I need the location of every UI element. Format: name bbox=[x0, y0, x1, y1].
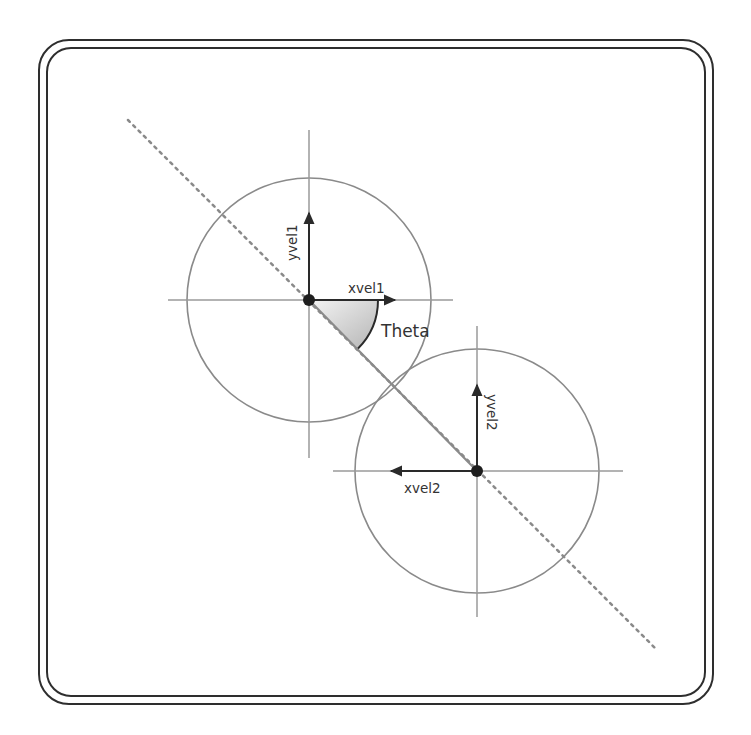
ball-1-center-dot bbox=[303, 294, 315, 306]
theta-angle-wedge bbox=[309, 300, 378, 349]
yvel2-label: yvel2 bbox=[484, 394, 500, 431]
diagram-canvas: xvel1 yvel1 Theta xvel2 yvel2 bbox=[0, 0, 751, 735]
ball-1 bbox=[168, 130, 453, 458]
theta-label: Theta bbox=[380, 321, 430, 341]
ball-2-center-dot bbox=[471, 465, 483, 477]
yvel1-label: yvel1 bbox=[284, 224, 300, 261]
xvel1-label: xvel1 bbox=[348, 280, 385, 296]
xvel2-label: xvel2 bbox=[404, 480, 441, 496]
